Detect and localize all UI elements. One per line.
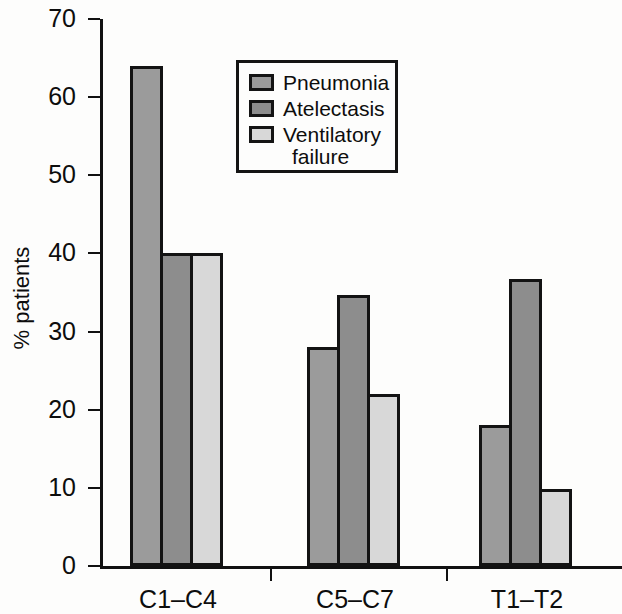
x-separator-1 (270, 568, 272, 581)
y-tick-label-40: 40 (30, 240, 76, 265)
y-tick-50 (88, 174, 100, 176)
legend-swatch-pneumonia (249, 74, 274, 91)
legend-item-atelectasis: Atelectasis (249, 97, 395, 122)
y-tick-label-50: 50 (30, 162, 76, 187)
y-tick-30 (88, 331, 100, 333)
y-tick-70 (88, 18, 100, 20)
bar-C5C7-ventilatory-failure (367, 394, 400, 566)
y-tick-60 (88, 96, 100, 98)
x-label-C1C4: C1–C4 (118, 585, 238, 614)
x-label-C5C7: C5–C7 (295, 585, 415, 614)
legend-label-ventilatory-failure-line2: failure (292, 145, 395, 168)
bar-C1C4-atelectasis (160, 253, 193, 566)
legend-swatch-atelectasis (249, 100, 274, 117)
y-tick-label-30: 30 (30, 319, 76, 344)
y-tick-label-70: 70 (30, 6, 76, 31)
bar-C5C7-pneumonia (307, 347, 340, 566)
bar-C1C4-pneumonia (130, 66, 163, 566)
x-axis-line (100, 566, 622, 569)
y-tick-label-60: 60 (30, 84, 76, 109)
bar-T1T2-ventilatory-failure (539, 489, 572, 566)
legend-item-pneumonia: Pneumonia (249, 71, 395, 96)
legend: Pneumonia Atelectasis Ventilatory failur… (236, 60, 398, 173)
y-tick-label-20: 20 (30, 397, 76, 422)
y-tick-label-0: 0 (30, 553, 76, 578)
bar-T1T2-pneumonia (479, 425, 512, 566)
y-tick-20 (88, 409, 100, 411)
bar-C1C4-ventilatory-failure (190, 253, 223, 566)
x-label-T1T2: T1–T2 (467, 585, 587, 614)
y-axis-line (100, 19, 103, 568)
y-tick-40 (88, 252, 100, 254)
legend-label-ventilatory-failure: Ventilatory (283, 123, 381, 146)
legend-swatch-ventilatory-failure (249, 126, 274, 143)
bar-T1T2-atelectasis (509, 279, 542, 566)
legend-label-pneumonia: Pneumonia (283, 71, 389, 94)
bar-chart: 706050403020100 % patients C1–C4C5–C7T1–… (0, 0, 622, 614)
bar-C5C7-atelectasis (337, 295, 370, 566)
y-tick-0 (88, 565, 100, 567)
legend-label-atelectasis: Atelectasis (283, 97, 385, 120)
x-separator-2 (446, 568, 448, 581)
y-tick-label-10: 10 (30, 475, 76, 500)
y-axis-title: % patients (9, 228, 35, 368)
y-tick-10 (88, 487, 100, 489)
